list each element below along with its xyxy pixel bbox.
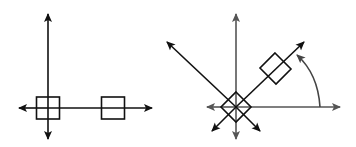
- diagonal-nw-axis-arrow: [167, 42, 236, 107]
- diagram-canvas: [0, 0, 356, 147]
- rotation-arc-arrow: [297, 55, 320, 107]
- diagonal-ne-axis-arrow: [236, 42, 304, 107]
- right-figure: [167, 14, 340, 139]
- left-figure: [19, 14, 152, 139]
